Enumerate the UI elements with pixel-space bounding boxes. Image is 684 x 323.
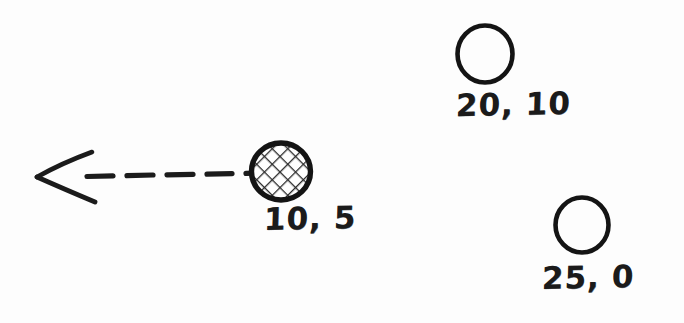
sketch-canvas: 10, 5 20, 10 25, 0: [0, 0, 684, 323]
motion-arrow: [37, 152, 268, 202]
arrow-dashed-shaft: [87, 173, 268, 177]
node-hatched-circle[interactable]: [248, 140, 318, 206]
node-bottom-right-outline: [556, 198, 609, 253]
node-label-10-5: 10, 5: [263, 199, 356, 237]
node-bottom-right-circle[interactable]: [556, 198, 609, 253]
node-top-right-outline: [458, 26, 513, 83]
node-top-right-circle[interactable]: [458, 26, 513, 83]
node-label-25-0: 25, 0: [541, 258, 634, 296]
node-label-20-10: 20, 10: [455, 85, 571, 123]
